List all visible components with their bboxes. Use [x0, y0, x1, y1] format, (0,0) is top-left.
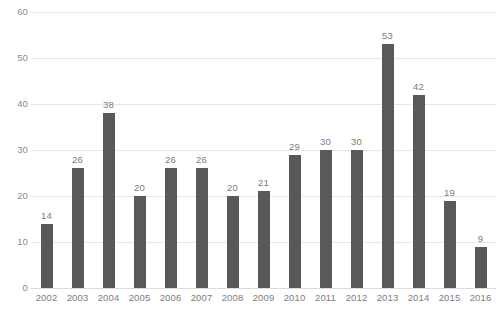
bar-group: 53	[372, 12, 403, 288]
bars-layer: 14263820262620212930305342199	[31, 12, 496, 288]
x-tick-label: 2005	[129, 292, 151, 303]
bar-value-label: 21	[258, 178, 269, 188]
x-tick-label: 2012	[346, 292, 368, 303]
bar	[289, 155, 301, 288]
bar	[165, 168, 177, 288]
bar	[320, 150, 332, 288]
bar	[382, 44, 394, 288]
x-tick-label: 2014	[408, 292, 430, 303]
x-tick-label: 2009	[253, 292, 275, 303]
bar-value-label: 26	[72, 155, 83, 165]
bar-group: 42	[403, 12, 434, 288]
x-tick-label: 2011	[315, 292, 336, 303]
x-tick-label: 2010	[284, 292, 306, 303]
bar	[258, 191, 270, 288]
bar-value-label: 26	[165, 155, 176, 165]
bar-value-label: 26	[196, 155, 207, 165]
y-tick-label: 0	[2, 283, 28, 293]
bar-group: 29	[279, 12, 310, 288]
bar-value-label: 19	[444, 188, 455, 198]
y-tick-label: 20	[2, 191, 28, 201]
bar	[134, 196, 146, 288]
bar-group: 30	[310, 12, 341, 288]
y-tick-label: 10	[2, 237, 28, 247]
bar-value-label: 53	[382, 31, 393, 41]
bar-group: 26	[62, 12, 93, 288]
x-tick-label: 2015	[439, 292, 461, 303]
bar-chart: 0102030405060 14263820262620212930305342…	[0, 0, 504, 318]
bar-group: 20	[124, 12, 155, 288]
bar-value-label: 20	[227, 183, 238, 193]
bar-value-label: 29	[289, 142, 300, 152]
bar-value-label: 9	[478, 234, 483, 244]
bar	[72, 168, 84, 288]
y-axis: 0102030405060	[0, 12, 28, 288]
x-tick-label: 2013	[377, 292, 399, 303]
bar-group: 20	[217, 12, 248, 288]
x-tick-label: 2003	[67, 292, 89, 303]
bar-group: 14	[31, 12, 62, 288]
y-tick-label: 60	[2, 7, 28, 17]
bar-value-label: 42	[413, 82, 424, 92]
bar	[444, 201, 456, 288]
y-tick-label: 50	[2, 53, 28, 63]
bar-value-label: 30	[351, 137, 362, 147]
bar	[196, 168, 208, 288]
y-tick-label: 40	[2, 99, 28, 109]
axis-baseline	[31, 288, 496, 289]
bar	[475, 247, 487, 288]
x-axis: 2002200320042005200620072008200920102011…	[31, 292, 496, 310]
bar-value-label: 20	[134, 183, 145, 193]
bar-group: 19	[434, 12, 465, 288]
bar-value-label: 14	[41, 211, 52, 221]
x-tick-label: 2007	[191, 292, 213, 303]
bar	[351, 150, 363, 288]
x-tick-label: 2008	[222, 292, 244, 303]
y-tick-label: 30	[2, 145, 28, 155]
x-tick-label: 2006	[160, 292, 182, 303]
bar-group: 26	[155, 12, 186, 288]
bar	[41, 224, 53, 288]
x-tick-label: 2004	[98, 292, 120, 303]
bar-group: 30	[341, 12, 372, 288]
bar-group: 38	[93, 12, 124, 288]
x-tick-label: 2016	[470, 292, 492, 303]
bar-group: 9	[465, 12, 496, 288]
x-tick-label: 2002	[36, 292, 58, 303]
bar-value-label: 38	[103, 100, 114, 110]
bar-group: 21	[248, 12, 279, 288]
bar	[103, 113, 115, 288]
bar-group: 26	[186, 12, 217, 288]
bar	[227, 196, 239, 288]
bar	[413, 95, 425, 288]
bar-value-label: 30	[320, 137, 331, 147]
